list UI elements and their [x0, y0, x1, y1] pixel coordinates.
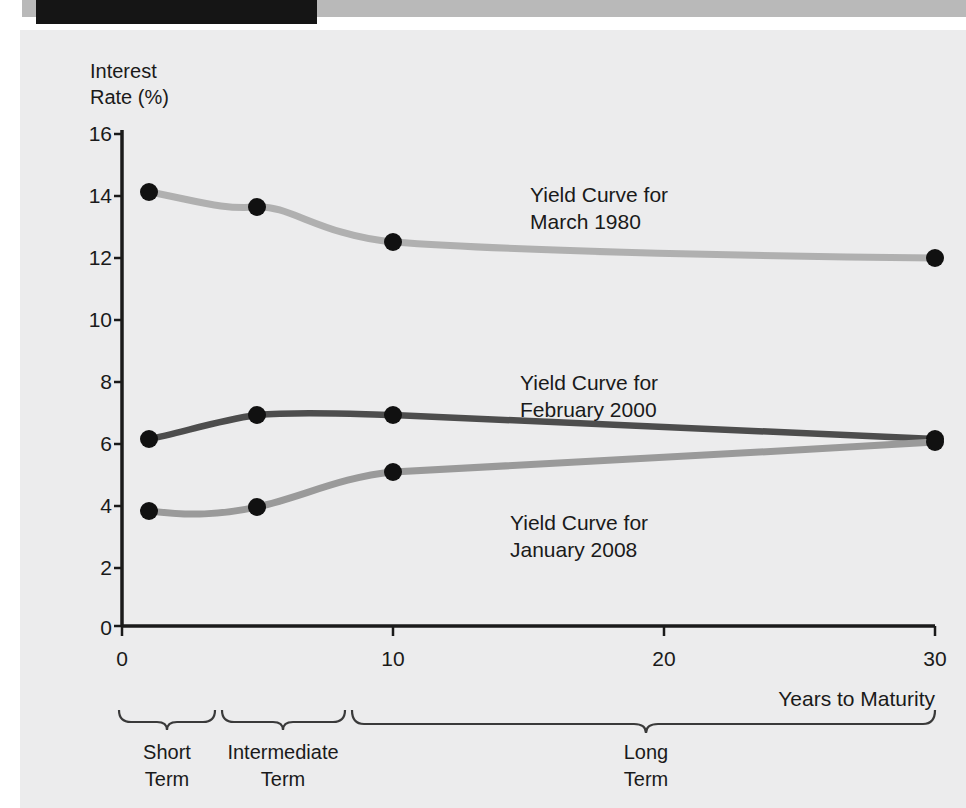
series-label-january-2008-line1: Yield Curve for	[510, 511, 648, 534]
y-axis-title-line2: Rate (%)	[90, 86, 169, 108]
series-label-march-1980-line2: March 1980	[530, 210, 641, 233]
bracket-long-term	[352, 710, 935, 733]
bracket-label-long-term-line1: Long	[624, 741, 669, 763]
y-axis-title-line1: Interest	[90, 60, 157, 82]
yield-curve-chart: Interest Rate (%) 16 14 12 10 8 6 4 2 0	[20, 30, 966, 808]
bracket-label-short-term-line1: Short	[143, 741, 191, 763]
series-line-january-2008	[149, 442, 935, 514]
series-label-january-2008-line2: January 2008	[510, 538, 637, 561]
y-tick-label-8: 8	[100, 370, 112, 393]
series-label-february-2000-line2: February 2000	[520, 398, 657, 421]
y-tick-label-6: 6	[100, 432, 112, 455]
y-tick-label-14: 14	[89, 184, 113, 207]
bracket-short-term	[119, 710, 215, 730]
y-tick-label-4: 4	[100, 494, 112, 517]
y-tick-label-16: 16	[89, 122, 112, 145]
series-label-march-1980-line1: Yield Curve for	[530, 183, 668, 206]
bracket-intermediate-term	[222, 710, 345, 730]
bracket-label-short-term-line2: Term	[145, 768, 189, 790]
x-tick-label-20: 20	[652, 647, 675, 670]
series-label-february-2000-line1: Yield Curve for	[520, 371, 658, 394]
y-tick-label-10: 10	[89, 308, 112, 331]
x-tick-label-0: 0	[116, 647, 128, 670]
top-black-block	[36, 0, 317, 24]
x-tick-label-10: 10	[381, 647, 404, 670]
y-tick-label-12: 12	[89, 246, 112, 269]
y-tick-label-2: 2	[100, 556, 112, 579]
figure-panel: Interest Rate (%) 16 14 12 10 8 6 4 2 0	[20, 30, 966, 808]
bracket-label-intermediate-term-line2: Term	[261, 768, 305, 790]
x-axis-title: Years to Maturity	[778, 687, 935, 710]
bracket-label-intermediate-term-line1: Intermediate	[227, 741, 338, 763]
x-tick-label-30: 30	[923, 647, 946, 670]
y-tick-label-0: 0	[100, 616, 112, 639]
bracket-label-long-term-line2: Term	[624, 768, 668, 790]
